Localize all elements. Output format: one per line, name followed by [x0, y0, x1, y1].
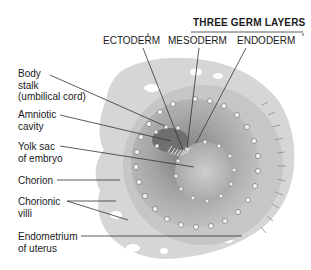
label-line: Chorionic: [18, 196, 60, 208]
yolk-sac-shape: [175, 142, 235, 202]
label-line: of uterus: [18, 243, 77, 255]
label-chorion: Chorion: [18, 175, 53, 187]
label-amniotic-cavity: Amniotic cavity: [18, 109, 56, 132]
label-yolk-sac: Yolk sac of embryo: [18, 141, 62, 164]
label-line: stalk: [18, 80, 86, 92]
label-line: (umbilical cord): [18, 91, 86, 103]
label-line: Yolk sac: [18, 141, 62, 153]
label-line: Chorion: [18, 175, 53, 187]
layer-ectoderm: ECTODERM: [103, 35, 160, 46]
label-endometrium: Endometrium of uterus: [18, 231, 77, 254]
label-line: Body: [18, 68, 86, 80]
layer-mesoderm: MESODERM: [168, 35, 227, 46]
label-body-stalk: Body stalk (umbilical cord): [18, 68, 86, 103]
label-line: villi: [18, 208, 60, 220]
layer-endoderm: ENDODERM: [237, 35, 295, 46]
label-chorionic-villi: Chorionic villi: [18, 196, 60, 219]
label-line: cavity: [18, 121, 56, 133]
label-line: of embryo: [18, 153, 62, 165]
germ-layers-title: THREE GERM LAYERS: [193, 17, 306, 28]
label-line: Endometrium: [18, 231, 77, 243]
label-line: Amniotic: [18, 109, 56, 121]
